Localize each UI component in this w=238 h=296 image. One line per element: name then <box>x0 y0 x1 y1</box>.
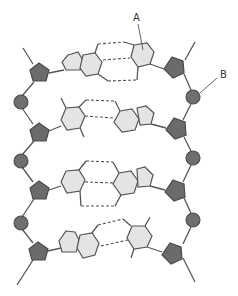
sugar-right-1 <box>164 57 184 78</box>
base-pair-2 <box>49 98 166 137</box>
pyrimidine-hexagon-4 <box>127 226 152 249</box>
phosphate-left-2 <box>14 154 28 168</box>
pyrimidine-hexagon-3 <box>61 170 85 193</box>
phosphate-left-3 <box>14 216 28 230</box>
purine-hexagon-3 <box>113 171 138 195</box>
phosphate-right-2 <box>186 151 200 165</box>
dna-diagram: A B <box>0 0 238 296</box>
sugar-left-4 <box>29 242 48 260</box>
purine-hexagon-2 <box>114 109 139 132</box>
sugar-left-1 <box>30 63 49 81</box>
right-backbone <box>162 42 200 282</box>
sugar-right-3 <box>165 180 185 201</box>
base-pair-4 <box>48 217 162 258</box>
pyrimidine-hexagon-2 <box>61 107 85 130</box>
label-b-group: B <box>200 69 227 93</box>
phosphate-right-3 <box>186 213 200 227</box>
label-a: A <box>133 12 140 23</box>
sugar-right-4 <box>162 243 182 264</box>
purine-hexagon-1 <box>80 53 102 76</box>
phosphate-right-1 <box>186 90 200 104</box>
purine-pentagon-3 <box>137 167 153 187</box>
purine-pentagon-2 <box>137 106 154 125</box>
phosphate-left-1 <box>14 95 28 109</box>
base-pair-3 <box>49 161 165 206</box>
base-pair-1 <box>49 42 164 81</box>
sugar-right-2 <box>166 118 186 139</box>
sugar-left-2 <box>30 123 49 141</box>
label-b: B <box>220 69 227 80</box>
left-backbone <box>14 48 49 285</box>
purine-hexagon-4 <box>77 233 99 258</box>
sugar-left-3 <box>30 181 49 199</box>
